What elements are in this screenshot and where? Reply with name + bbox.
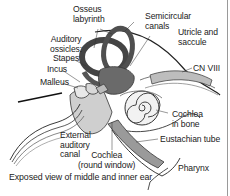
label-cn-viii: CN VIII [193, 64, 220, 74]
label-eustachian-tube: Eustachian tube [160, 135, 220, 145]
diagram-frame: Osseus labyrinth Semicircular canals Utr… [0, 0, 230, 196]
label-pharynx: Pharynx [178, 164, 209, 174]
label-utricle-saccule: Utricle and saccule [178, 28, 218, 47]
label-cochlea-in-bone: Cochlea in bone [172, 110, 203, 129]
label-line: Stapes [50, 54, 82, 64]
label-line: in bone [172, 120, 203, 130]
label-line: saccule [178, 38, 218, 48]
label-malleus: Malleus [40, 78, 69, 88]
figure-caption: Exposed view of middle and inner ear [9, 172, 152, 182]
right-border-line [227, 0, 228, 196]
label-line: (round window) [78, 161, 135, 171]
cochlea-shell [125, 91, 159, 125]
label-cochlea-round-window: Cochlea (round window) [78, 151, 135, 170]
label-auditory-ossicles: Auditory ossicles: Stapes [50, 35, 82, 64]
label-line: labyrinth [73, 15, 105, 25]
label-incus: Incus [47, 65, 67, 75]
label-osseus-labyrinth: Osseus labyrinth [73, 5, 105, 24]
